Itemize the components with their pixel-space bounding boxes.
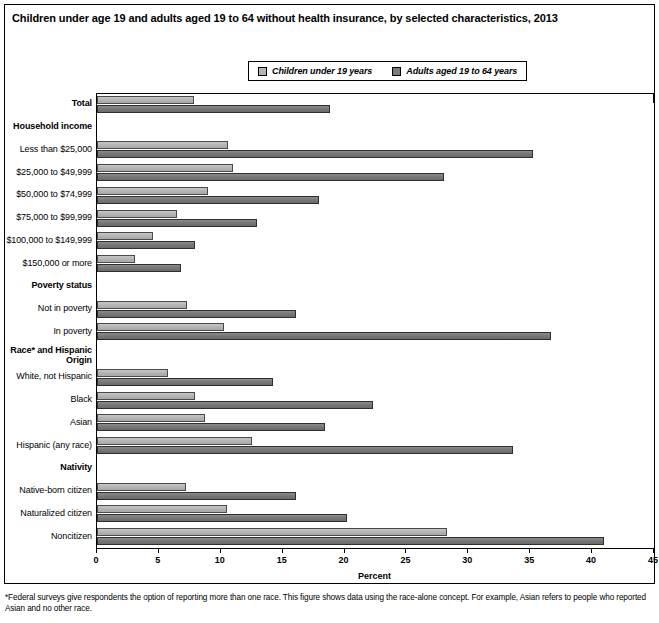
category-label: $25,000 to $49,999 [16,167,92,177]
category-label: White, not Hispanic [16,371,92,381]
bar-children [97,323,224,331]
chart-row: Native-born citizen [96,480,653,503]
bar-adults [97,378,273,386]
legend-swatch-adults-icon [392,67,401,76]
x-tick [529,548,530,553]
axis-right-cap [653,93,654,103]
category-label: Naturalized citizen [20,508,92,518]
chart-row: Less than $25,000 [96,139,653,162]
legend-item-children: Children under 19 years [258,66,372,76]
figure-page: Children under age 19 and adults aged 19… [0,0,659,623]
category-label: $150,000 or more [23,258,92,268]
category-label: Total [72,98,92,108]
bar-adults [97,446,513,454]
bar-children [97,392,195,400]
chart-legend: Children under 19 years Adults aged 19 t… [248,61,527,81]
bar-adults [97,105,330,113]
chart-row: Asian [96,412,653,435]
chart-row: Household income [96,116,653,139]
category-label: Nativity [60,462,92,472]
x-tick [653,548,654,553]
bar-children [97,369,168,377]
x-tick-label: 40 [586,555,596,565]
bar-adults [97,219,257,227]
bar-children [97,505,227,513]
bar-children [97,232,153,240]
x-tick [591,548,592,553]
bar-children [97,164,233,172]
chart-row: $25,000 to $49,999 [96,161,653,184]
chart-row: $100,000 to $149,999 [96,230,653,253]
category-label: Native-born citizen [19,485,92,495]
category-label: Hispanic (any race) [16,440,92,450]
legend-label-children: Children under 19 years [272,66,372,76]
x-tick [467,548,468,553]
category-label: Race* and HispanicOrigin [10,345,92,365]
bar-children [97,210,177,218]
bar-adults [97,150,533,158]
x-tick-label: 15 [277,555,287,565]
bar-children [97,301,187,309]
legend-item-adults: Adults aged 19 to 64 years [392,66,517,76]
bar-adults [97,492,296,500]
bar-children [97,255,135,263]
x-tick [96,548,97,553]
chart-row: Nativity [96,457,653,480]
chart-row: Race* and HispanicOrigin [96,343,653,366]
x-tick [158,548,159,553]
x-tick-label: 0 [93,555,98,565]
category-label: Less than $25,000 [20,144,92,154]
chart-row: $75,000 to $99,999 [96,207,653,230]
bar-adults [97,241,195,249]
x-tick [282,548,283,553]
x-tick-label: 35 [524,555,534,565]
bar-adults [97,514,347,522]
category-label: Poverty status [31,280,92,290]
x-tick [344,548,345,553]
figure-footnote: *Federal surveys give respondents the op… [5,592,650,614]
bar-adults [97,332,551,340]
page-title: Children under age 19 and adults aged 19… [12,12,642,25]
x-tick-label: 25 [400,555,410,565]
chart-row: Hispanic (any race) [96,434,653,457]
bar-children [97,187,208,195]
x-axis-title: Percent [96,571,653,581]
bar-children [97,437,252,445]
category-label: Not in poverty [38,303,92,313]
bar-children [97,483,186,491]
bar-adults [97,173,444,181]
x-tick-label: 45 [648,555,658,565]
chart-row: White, not Hispanic [96,366,653,389]
bar-adults [97,196,319,204]
category-label: Black [70,394,92,404]
category-label: Noncitizen [51,531,92,541]
bar-adults [97,423,325,431]
bar-adults [97,310,296,318]
x-tick-label: 30 [462,555,472,565]
chart-row: Not in poverty [96,298,653,321]
chart-row: In poverty [96,321,653,344]
category-label: In poverty [53,326,92,336]
bar-adults [97,264,181,272]
legend-swatch-children-icon [258,67,267,76]
chart-row: Noncitizen [96,525,653,548]
bar-adults [97,537,604,545]
bar-children [97,528,447,536]
category-label: $50,000 to $74,999 [16,189,92,199]
bar-children [97,414,205,422]
x-tick-label: 10 [215,555,225,565]
chart-row: $150,000 or more [96,252,653,275]
x-tick-label: 5 [155,555,160,565]
axis-x-line [96,548,654,549]
bar-adults [97,401,373,409]
bar-children [97,96,194,104]
x-tick [405,548,406,553]
chart-row: Poverty status [96,275,653,298]
bar-children [97,141,228,149]
legend-label-adults: Adults aged 19 to 64 years [406,66,517,76]
category-label: Household income [13,121,92,131]
chart-row: Naturalized citizen [96,503,653,526]
category-label: $100,000 to $149,999 [6,235,92,245]
category-label: $75,000 to $99,999 [16,212,92,222]
chart-plot-area: 051015202530354045TotalHousehold incomeL… [96,93,653,548]
